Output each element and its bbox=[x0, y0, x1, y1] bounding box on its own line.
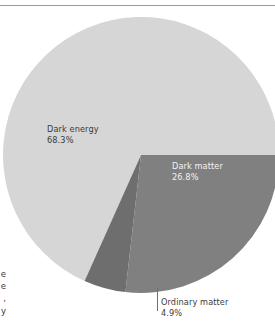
slice-label-ordinary-matter-name: Ordinary matter bbox=[161, 297, 228, 308]
slice-label-dark-matter-name: Dark matter bbox=[172, 161, 223, 172]
clipped-caption-fragment: e e , y bbox=[0, 268, 6, 317]
slice-label-dark-matter: Dark matter 26.8% bbox=[172, 161, 223, 182]
slice-label-dark-energy-value: 68.3% bbox=[47, 135, 99, 146]
pie-chart-graphic bbox=[0, 0, 275, 329]
caption-fragment-line-3: , bbox=[0, 292, 6, 304]
slice-label-dark-energy: Dark energy 68.3% bbox=[47, 124, 99, 145]
caption-fragment-line-4: y bbox=[0, 305, 6, 317]
slice-label-ordinary-matter: Ordinary matter 4.9% bbox=[161, 297, 228, 318]
caption-fragment-line-2: e bbox=[0, 280, 6, 292]
pie-chart-figure: Dark energy 68.3% Dark matter 26.8% Ordi… bbox=[0, 0, 275, 329]
slice-label-dark-energy-name: Dark energy bbox=[47, 124, 99, 135]
slice-label-dark-matter-value: 26.8% bbox=[172, 172, 223, 183]
leader-line-ordinary-matter bbox=[157, 288, 158, 311]
caption-fragment-line-1: e bbox=[0, 268, 6, 280]
slice-label-ordinary-matter-value: 4.9% bbox=[161, 308, 228, 319]
